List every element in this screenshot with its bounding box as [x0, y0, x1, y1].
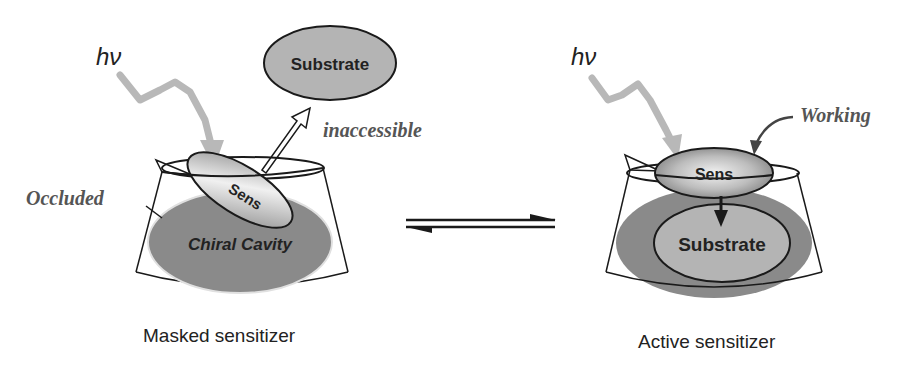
light-arrow-icon-right: [592, 78, 682, 160]
equilibrium-arrow-icon: [406, 214, 556, 233]
masked-caption: Masked sensitizer: [143, 325, 296, 346]
active-sensitizer-panel: hν Working Substrate Sens: [571, 43, 871, 352]
light-hv-label: hν: [96, 43, 121, 70]
inaccessible-label: inaccessible: [323, 119, 422, 141]
substrate-label-right: Substrate: [678, 234, 766, 255]
occluded-pointer: [146, 206, 162, 218]
working-pointer: [756, 117, 793, 144]
sensitizer-diagram: Substrate hν Chiral Cavity: [0, 0, 917, 375]
active-caption: Active sensitizer: [638, 331, 776, 352]
substrate-label: Substrate: [291, 55, 369, 74]
external-substrate: Substrate: [264, 26, 396, 100]
working-label: Working: [800, 104, 871, 127]
blocked-arrow-icon: [262, 108, 310, 173]
chiral-cavity-label: Chiral Cavity: [188, 235, 293, 254]
masked-sensitizer-panel: Substrate hν Chiral Cavity: [26, 26, 422, 346]
sens-label-right: Sens: [695, 166, 733, 183]
sensitizer-active: Sens: [655, 148, 773, 198]
occluded-label: Occluded: [26, 187, 105, 209]
light-hv-label-right: hν: [571, 43, 596, 70]
